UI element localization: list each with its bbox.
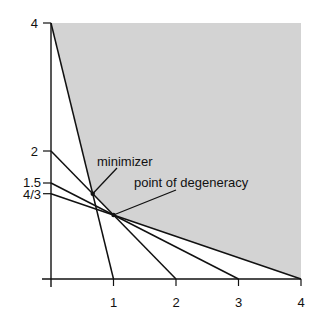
y-ticks — [43, 23, 51, 194]
y-tick-label-4-3: 4/3 — [23, 187, 41, 202]
y-tick-label-2: 2 — [31, 144, 38, 159]
x-tick-label-4: 4 — [297, 295, 304, 310]
x-tick-label-3: 3 — [235, 295, 242, 310]
minimizer-label: minimizer — [97, 154, 153, 169]
x-ticks — [114, 279, 302, 286]
degeneracy-label: point of degeneracy — [134, 175, 249, 190]
lp-diagram: 1 2 3 4 4 2 1.5 4/3 minimizer point of d… — [0, 0, 319, 326]
y-tick-label-4: 4 — [31, 16, 38, 31]
x-tick-label-1: 1 — [110, 295, 117, 310]
feasible-region — [51, 23, 301, 279]
x-tick-label-2: 2 — [172, 295, 179, 310]
